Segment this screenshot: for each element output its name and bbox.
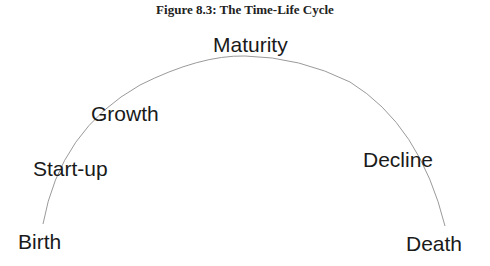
stage-label-decline: Decline xyxy=(363,149,433,170)
stage-label-birth: Birth xyxy=(18,231,61,252)
stage-label-start-up: Start-up xyxy=(33,158,108,179)
stage-label-growth: Growth xyxy=(91,103,159,124)
stage-label-maturity: Maturity xyxy=(213,34,288,55)
stage-label-death: Death xyxy=(406,233,462,254)
